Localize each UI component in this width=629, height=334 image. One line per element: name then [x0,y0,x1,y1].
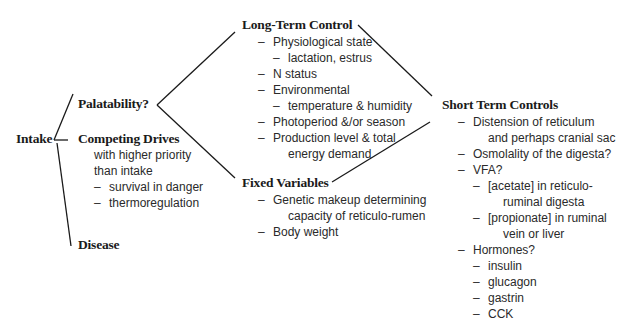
node-long-term-control: Long-Term Control [242,17,352,33]
fixed-variables-list: –Genetic makeup determiningcapacity of r… [258,192,426,240]
dash-bullet: – [258,192,273,208]
list-item: –survival in danger [94,179,203,195]
item-text: Production level & total [273,131,396,145]
dash-bullet: – [473,306,488,322]
dash-bullet: – [258,224,273,240]
item-text: survival in danger [109,180,203,194]
short-term-controls-list: –Distension of reticulumand perhaps cran… [458,114,615,322]
item-text: N status [273,67,317,81]
list-item: –Physiological state [258,34,412,50]
dash-bullet: – [473,178,488,194]
list-item: –Genetic makeup determining [258,192,426,208]
node-competing-drives: Competing Drives [78,131,179,147]
node-intake: Intake [16,131,52,147]
item-text: Physiological state [273,35,372,49]
list-item: –Photoperiod &/or season [258,114,412,130]
list-item: –Body weight [258,224,426,240]
list-item: –[acetate] in reticulo- [458,178,615,194]
list-item: –thermoregulation [94,195,203,211]
list-item: –Environmental [258,82,412,98]
item-text: glucagon [488,275,537,289]
dash-bullet: – [458,162,473,178]
dash-bullet: – [473,274,488,290]
node-disease: Disease [78,237,119,253]
node-short-term-controls: Short Term Controls [442,97,558,113]
dash-bullet: – [273,98,288,114]
dash-bullet: – [258,114,273,130]
dash-bullet: – [458,146,473,162]
item-text: vein or liver [503,227,564,241]
competing-drives-list: with higher prioritythan intake–survival… [94,147,203,211]
item-text: ruminal digesta [503,195,584,209]
dash-bullet: – [458,114,473,130]
list-item: capacity of reticulo-rumen [258,208,426,224]
item-text: than intake [94,164,153,178]
list-item: ruminal digesta [458,194,615,210]
item-text: Hormones? [473,243,535,257]
dash-bullet: – [473,210,488,226]
list-item: –CCK [458,306,615,322]
list-item: energy demand [258,146,412,162]
list-item: –[propionate] in ruminal [458,210,615,226]
list-item: –VFA? [458,162,615,178]
item-text: Photoperiod &/or season [273,115,405,129]
item-text: [propionate] in ruminal [488,211,607,225]
dash-bullet: – [258,34,273,50]
dash-bullet: – [258,66,273,82]
item-text: gastrin [488,291,524,305]
item-text: energy demand [288,147,371,161]
node-palatability: Palatability? [78,96,149,112]
long-term-control-list: –Physiological state–lactation, estrus–N… [258,34,412,162]
list-item: –glucagon [458,274,615,290]
item-text: [acetate] in reticulo- [488,179,593,193]
line-palatability-to-long-term [157,32,235,105]
dash-bullet: – [94,179,109,195]
list-item: –Production level & total [258,130,412,146]
item-text: temperature & humidity [288,99,412,113]
line-intake-to-disease [57,143,71,246]
item-text: insulin [488,259,522,273]
item-text: Genetic makeup determining [273,193,426,207]
dash-bullet: – [273,50,288,66]
node-fixed-variables: Fixed Variables [242,175,329,191]
item-text: Distension of reticulum [473,115,594,129]
item-text: Osmolality of the digesta? [473,147,611,161]
list-item: than intake [94,163,203,179]
dash-bullet: – [258,82,273,98]
list-item: –Hormones? [458,242,615,258]
item-text: thermoregulation [109,196,199,210]
item-text: Environmental [273,83,350,97]
list-item: –Distension of reticulum [458,114,615,130]
list-item: –Osmolality of the digesta? [458,146,615,162]
dash-bullet: – [94,195,109,211]
dash-bullet: – [473,258,488,274]
list-item: vein or liver [458,226,615,242]
item-text: VFA? [473,163,502,177]
list-item: –insulin [458,258,615,274]
item-text: Body weight [273,225,338,239]
dash-bullet: – [473,290,488,306]
dash-bullet: – [458,242,473,258]
item-text: capacity of reticulo-rumen [288,209,425,223]
item-text: CCK [488,307,513,321]
list-item: –lactation, estrus [258,50,412,66]
line-intake-to-palatability [54,94,73,140]
list-item: and perhaps cranial sac [458,130,615,146]
list-item: –gastrin [458,290,615,306]
item-text: and perhaps cranial sac [488,131,615,145]
dash-bullet: – [258,130,273,146]
list-item: with higher priority [94,147,203,163]
item-text: lactation, estrus [288,51,372,65]
list-item: –N status [258,66,412,82]
item-text: with higher priority [94,148,191,162]
list-item: –temperature & humidity [258,98,412,114]
